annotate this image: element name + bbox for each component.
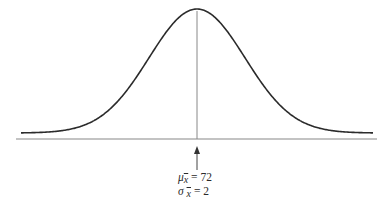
mean-value: = 72 <box>191 171 212 183</box>
sd-subscript: x <box>187 188 191 199</box>
arrow-up-icon <box>194 146 200 154</box>
mu-symbol: μ <box>178 171 184 183</box>
sd-label: σ x = 2 <box>178 185 209 198</box>
mean-label: μx = 72 <box>178 171 212 184</box>
sd-value: = 2 <box>194 185 209 197</box>
sigma-symbol: σ <box>178 185 184 197</box>
mean-subscript: x <box>184 174 188 185</box>
